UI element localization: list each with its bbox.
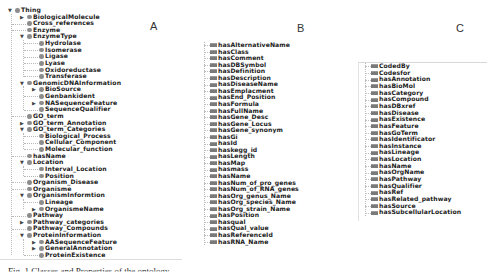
tree-guide-line bbox=[23, 166, 24, 176]
class-icon bbox=[27, 193, 32, 198]
class-icon bbox=[27, 213, 32, 218]
tree-guide-line bbox=[23, 199, 24, 209]
tree-branch-line bbox=[12, 216, 26, 217]
panel-label-c: C bbox=[456, 22, 464, 34]
panel-label-b: B bbox=[297, 22, 304, 34]
class-icon bbox=[39, 253, 44, 258]
tree-branch-line bbox=[24, 110, 38, 111]
property-icon bbox=[371, 84, 378, 88]
class-icon bbox=[39, 48, 44, 53]
class-icon bbox=[27, 180, 32, 185]
property-icon bbox=[371, 71, 378, 75]
property-icon bbox=[371, 111, 378, 115]
tree-branch-line bbox=[24, 169, 38, 170]
collapse-toggle-icon[interactable]: ▶ bbox=[19, 120, 25, 127]
class-icon bbox=[39, 101, 44, 106]
tree-branch-line bbox=[24, 76, 38, 77]
class-icon bbox=[39, 134, 44, 139]
property-icon bbox=[371, 124, 378, 128]
property-icon bbox=[371, 211, 378, 215]
class-icon bbox=[39, 54, 44, 59]
property-icon bbox=[210, 214, 217, 218]
property-label: hasRNA_Name bbox=[218, 239, 268, 246]
property-icon bbox=[371, 157, 378, 161]
expand-toggle-icon[interactable]: ▼ bbox=[19, 159, 25, 166]
expand-toggle-icon[interactable]: ▼ bbox=[19, 80, 25, 87]
expand-toggle-icon[interactable]: ▼ bbox=[19, 192, 25, 199]
class-icon bbox=[27, 187, 32, 192]
property-icon bbox=[371, 184, 378, 188]
property-icon bbox=[210, 96, 217, 100]
property-icon bbox=[210, 135, 217, 139]
tree-branch-line bbox=[24, 143, 38, 144]
property-icon bbox=[210, 122, 217, 126]
class-icon bbox=[39, 147, 44, 152]
tree-guide-line bbox=[23, 86, 24, 109]
property-icon bbox=[210, 194, 217, 198]
tree-branch-line bbox=[12, 24, 26, 25]
property-icon bbox=[371, 137, 378, 141]
property-label: hasSubcellularLocation bbox=[379, 209, 461, 216]
property-icon bbox=[371, 91, 378, 95]
class-icon bbox=[27, 81, 32, 86]
tree-branch-line bbox=[24, 136, 38, 137]
property-icon bbox=[371, 171, 378, 175]
property-icon bbox=[210, 102, 217, 106]
class-icon bbox=[27, 160, 32, 165]
object-properties-panel: CodedByCodesforhasAnnotationhasBioMolhas… bbox=[358, 62, 487, 221]
tree-branch-line bbox=[12, 189, 26, 190]
expand-toggle-icon[interactable]: ▼ bbox=[19, 232, 25, 239]
class-icon bbox=[27, 114, 32, 119]
class-icon bbox=[39, 87, 44, 92]
collapse-toggle-icon[interactable]: ▶ bbox=[19, 14, 25, 21]
collapse-toggle-icon[interactable]: ▶ bbox=[31, 100, 37, 107]
property-icon bbox=[210, 174, 217, 178]
class-icon bbox=[39, 140, 44, 145]
property-icon bbox=[371, 104, 378, 108]
property-icon bbox=[371, 164, 378, 168]
tree-branch-line bbox=[12, 30, 26, 31]
tree-branch-line bbox=[24, 70, 38, 71]
figure-caption: Fig. 1 Classes and Properties of the ont… bbox=[8, 266, 170, 276]
property-icon bbox=[210, 76, 217, 80]
tree-guide-line bbox=[23, 40, 24, 76]
class-icon bbox=[39, 167, 44, 172]
tree-branch-line bbox=[12, 156, 26, 157]
class-icon bbox=[39, 41, 44, 46]
collapse-toggle-icon[interactable]: ▶ bbox=[19, 219, 25, 226]
collapse-toggle-icon[interactable]: ▶ bbox=[31, 239, 37, 246]
expand-toggle-icon[interactable]: ▼ bbox=[7, 7, 13, 14]
property-icon bbox=[210, 220, 217, 224]
property-icon bbox=[210, 89, 217, 93]
tree-branch-line bbox=[24, 50, 38, 51]
class-icon bbox=[27, 226, 32, 231]
property-icon bbox=[210, 83, 217, 87]
tree-branch-line bbox=[12, 182, 26, 183]
tree-branch-line bbox=[24, 96, 38, 97]
tree-guide-line bbox=[11, 14, 12, 256]
property-icon bbox=[210, 207, 217, 211]
property-icon bbox=[210, 168, 217, 172]
tree-branch-line bbox=[24, 202, 38, 203]
property-icon bbox=[210, 63, 217, 67]
class-icon bbox=[27, 127, 32, 132]
property-icon bbox=[210, 109, 217, 113]
tree-branch-line bbox=[24, 176, 38, 177]
expand-toggle-icon[interactable]: ▼ bbox=[19, 126, 25, 133]
tree-guide-line bbox=[23, 239, 24, 256]
property-icon bbox=[210, 43, 217, 47]
collapse-toggle-icon[interactable]: ▶ bbox=[31, 245, 37, 252]
tree-branch-line bbox=[24, 255, 38, 256]
class-icon bbox=[27, 121, 32, 126]
property-icon bbox=[210, 187, 217, 191]
property-icon bbox=[210, 181, 217, 185]
property-icon bbox=[371, 197, 378, 201]
panel-label-a: A bbox=[150, 20, 157, 32]
expand-toggle-icon[interactable]: ▼ bbox=[19, 33, 25, 40]
property-icon bbox=[210, 148, 217, 152]
property-icon bbox=[371, 144, 378, 148]
tree-branch-line bbox=[12, 116, 26, 117]
property-icon bbox=[210, 227, 217, 231]
property-icon bbox=[371, 151, 378, 155]
collapse-toggle-icon[interactable]: ▶ bbox=[31, 86, 37, 93]
